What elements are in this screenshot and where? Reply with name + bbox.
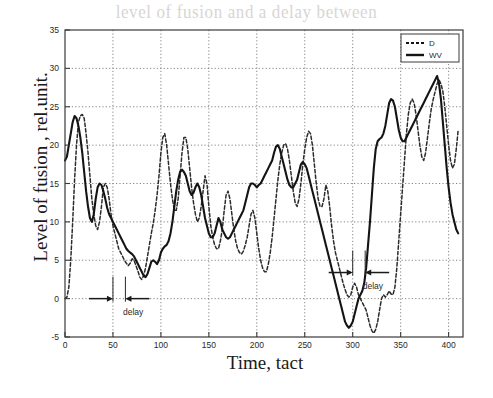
x-tick-label: 50	[108, 340, 118, 350]
plot-background	[65, 30, 463, 337]
y-axis-title-text: Level of fusion , rel.unit.	[30, 72, 52, 261]
delay-label: delay	[123, 307, 144, 317]
x-tick-label: 250	[298, 340, 312, 350]
y-tick-label: -5	[51, 332, 59, 342]
x-axis-title: Time, tact	[65, 352, 465, 374]
x-tick-label: 200	[250, 340, 264, 350]
legend-label-wv: WV	[429, 51, 443, 60]
legend-label-d: D	[429, 39, 435, 48]
x-tick-label: 350	[394, 340, 408, 350]
x-tick-label: 100	[154, 340, 168, 350]
x-axis-title-text: Time, tact	[227, 352, 303, 373]
delay-label: delay	[363, 281, 384, 291]
x-tick-label: 0	[63, 340, 68, 350]
x-tick-label: 400	[442, 340, 456, 350]
y-axis-title: Level of fusion , rel.unit.	[26, 22, 56, 312]
x-tick-label: 300	[346, 340, 360, 350]
x-tick-label: 150	[202, 340, 216, 350]
legend: DWV	[401, 34, 459, 62]
chart-plot-area: -505101520253035050100150200250300350400…	[0, 0, 493, 398]
chart-figure: -505101520253035050100150200250300350400…	[0, 0, 493, 398]
